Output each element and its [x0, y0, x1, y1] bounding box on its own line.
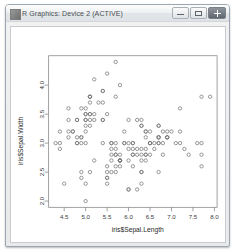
data-point	[58, 147, 61, 150]
data-point	[153, 147, 156, 150]
data-point	[127, 159, 130, 162]
data-point	[67, 130, 70, 133]
data-point	[114, 170, 117, 173]
y-tick-label: 4.0	[38, 80, 45, 89]
data-point	[135, 188, 138, 191]
data-point	[118, 153, 121, 156]
x-tick-label: 7.5	[189, 213, 198, 220]
data-point	[144, 136, 147, 139]
data-point	[123, 141, 126, 144]
data-point	[97, 101, 100, 104]
data-point	[200, 165, 203, 168]
data-point	[166, 130, 169, 133]
data-point	[58, 141, 61, 144]
data-point	[148, 141, 151, 144]
close-button[interactable]	[208, 7, 226, 19]
data-point	[80, 141, 83, 144]
data-point	[62, 182, 65, 185]
data-point	[166, 136, 169, 139]
data-point	[80, 107, 83, 110]
data-point	[75, 118, 78, 121]
data-point	[157, 170, 160, 173]
close-icon-cross	[214, 13, 221, 14]
data-point	[58, 130, 61, 133]
x-tick-label: 5.0	[81, 213, 90, 220]
data-point	[200, 141, 203, 144]
data-point	[131, 147, 134, 150]
data-point	[127, 188, 130, 191]
data-point	[105, 72, 108, 75]
data-point	[114, 153, 117, 156]
data-point	[93, 112, 96, 115]
data-point	[114, 147, 117, 150]
data-point	[84, 107, 87, 110]
data-point	[105, 182, 108, 185]
data-point	[88, 95, 91, 98]
data-point	[135, 147, 138, 150]
data-point	[75, 136, 78, 139]
y-tick-label: 2.5	[38, 167, 45, 176]
y-tick-label: 3.5	[38, 109, 45, 118]
data-point	[101, 141, 104, 144]
data-point	[131, 165, 134, 168]
data-point	[101, 118, 104, 121]
y-axis-label: iris$Sepal.Width	[17, 116, 25, 165]
data-point	[84, 141, 87, 144]
data-point	[153, 141, 156, 144]
data-point	[161, 130, 164, 133]
data-point	[118, 83, 121, 86]
maximize-button[interactable]	[190, 7, 207, 19]
x-axis-ticks: 4.55.05.56.06.57.07.58.0	[60, 207, 219, 220]
data-point	[161, 153, 164, 156]
data-point	[200, 153, 203, 156]
data-point	[178, 141, 181, 144]
data-point	[54, 141, 57, 144]
data-point	[144, 153, 147, 156]
window-title: R Graphics: Device 2 (ACTIVE)	[22, 8, 123, 19]
data-point	[110, 141, 113, 144]
x-tick-label: 6.0	[124, 213, 133, 220]
minimize-button[interactable]	[172, 7, 189, 19]
data-point	[140, 159, 143, 162]
data-point	[114, 165, 117, 168]
data-point	[93, 118, 96, 121]
minimize-icon	[177, 14, 184, 15]
data-point	[200, 95, 203, 98]
data-point	[148, 130, 151, 133]
data-point	[88, 124, 91, 127]
data-point	[84, 182, 87, 185]
x-tick-label: 5.5	[103, 213, 112, 220]
data-point	[80, 176, 83, 179]
window-titlebar[interactable]: R Graphics: Device 2 (ACTIVE)	[6, 5, 229, 22]
data-point	[88, 101, 91, 104]
data-points	[54, 60, 212, 202]
x-tick-label: 4.5	[60, 213, 69, 220]
data-point	[88, 118, 91, 121]
r-graphics-icon	[10, 9, 21, 20]
data-point	[110, 170, 113, 173]
data-point	[161, 141, 164, 144]
data-point	[178, 130, 181, 133]
data-point	[127, 147, 130, 150]
data-point	[84, 118, 87, 121]
data-point	[127, 141, 130, 144]
data-point	[174, 141, 177, 144]
data-point	[110, 153, 113, 156]
y-tick-label: 3.0	[38, 138, 45, 147]
data-point	[101, 89, 104, 92]
data-point	[144, 147, 147, 150]
data-point	[105, 176, 108, 179]
data-point	[183, 147, 186, 150]
data-point	[118, 159, 121, 162]
r-graphics-window: R Graphics: Device 2 (ACTIVE) 4.55.05.56…	[5, 4, 230, 247]
data-point	[88, 170, 91, 173]
x-tick-label: 6.5	[146, 213, 155, 220]
data-point	[208, 95, 211, 98]
plot-canvas: 4.55.05.56.06.57.07.58.0 2.02.53.03.54.0…	[10, 26, 226, 243]
data-point	[80, 170, 83, 173]
data-point	[157, 141, 160, 144]
data-point	[114, 141, 117, 144]
data-point	[67, 107, 70, 110]
data-point	[84, 112, 87, 115]
y-axis-ticks: 2.02.53.03.54.0	[38, 80, 49, 205]
